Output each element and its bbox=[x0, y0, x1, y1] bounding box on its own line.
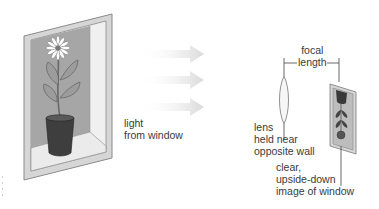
label-line: clear, bbox=[276, 161, 354, 173]
arrow-right-icon bbox=[140, 71, 204, 89]
label-line: length bbox=[298, 56, 327, 68]
upside-down-image-label: clear, upside-down image of window bbox=[276, 161, 354, 197]
label-line: from window bbox=[124, 129, 183, 141]
window-illustration bbox=[24, 14, 112, 180]
light-from-window-label: light from window bbox=[124, 117, 183, 141]
label-line: opposite wall bbox=[254, 145, 315, 157]
label-line: held near bbox=[254, 133, 315, 145]
lens-label: lens held near opposite wall bbox=[254, 121, 315, 157]
arrow-right-icon bbox=[140, 45, 204, 63]
flowerpot-icon bbox=[46, 115, 74, 156]
edge-marks bbox=[2, 176, 3, 196]
focal-length-label: focal length bbox=[298, 44, 327, 68]
light-arrows bbox=[140, 45, 204, 116]
label-line: focal bbox=[298, 44, 327, 56]
arrow-right-icon bbox=[140, 98, 204, 116]
label-line: lens bbox=[254, 121, 315, 133]
label-line: light bbox=[124, 117, 183, 129]
label-line: image of window bbox=[276, 185, 354, 197]
label-line: upside-down bbox=[276, 173, 354, 185]
